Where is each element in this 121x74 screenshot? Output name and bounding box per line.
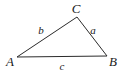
vertex-label-c: C (72, 2, 81, 15)
side-label-a: a (90, 25, 96, 36)
side-label-b: b (38, 25, 44, 36)
side-label-c: c (60, 61, 65, 72)
vertex-label-b: B (109, 55, 117, 68)
vertex-label-a: A (6, 55, 14, 68)
triangle-figure: A B C a b c (0, 0, 121, 74)
